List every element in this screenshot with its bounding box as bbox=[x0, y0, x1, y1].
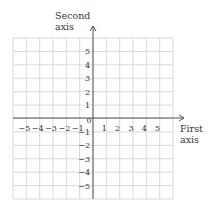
y-tick-label: −5 bbox=[78, 182, 90, 191]
coordinate-plane: Second axis First axis −5−4−3−2−1012345 … bbox=[0, 0, 212, 210]
x-tick-label: 1 bbox=[102, 124, 107, 133]
x-tick-label: 2 bbox=[115, 124, 120, 133]
x-tick-label: 5 bbox=[155, 124, 160, 133]
x-tick-label: −5 bbox=[18, 124, 30, 133]
x-tick-label: −4 bbox=[32, 124, 44, 133]
y-tick-label: 2 bbox=[85, 88, 90, 97]
first-axis-label-line1: First bbox=[180, 123, 203, 134]
x-tick-label: 0 bbox=[86, 116, 91, 125]
x-tick-label: 4 bbox=[142, 124, 147, 133]
y-tick-label: −4 bbox=[78, 168, 90, 177]
x-tick-label: −2 bbox=[58, 124, 70, 133]
y-tick-label: −1 bbox=[78, 128, 90, 137]
y-tick-label: −2 bbox=[78, 141, 90, 150]
y-tick-label: 4 bbox=[85, 61, 90, 70]
second-axis-label-line1: Second bbox=[55, 10, 90, 21]
x-tick-label: −3 bbox=[45, 124, 57, 133]
second-axis-label-line2: axis bbox=[55, 21, 74, 32]
y-tick-label: 1 bbox=[85, 101, 90, 110]
y-tick-label: 3 bbox=[85, 74, 90, 83]
first-axis-label-line2: axis bbox=[180, 134, 199, 145]
x-tick-label: 3 bbox=[128, 124, 133, 133]
y-tick-label: −3 bbox=[78, 155, 90, 164]
y-tick-label: 5 bbox=[85, 47, 90, 56]
